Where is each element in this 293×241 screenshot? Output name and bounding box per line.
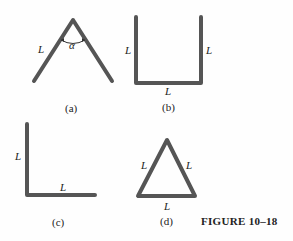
figure-title: FIGURE 10–18 (201, 216, 278, 227)
panel-a-length-label: L (38, 44, 44, 55)
panel-b-left-label: L (125, 45, 131, 56)
figure-drawing (0, 0, 293, 241)
panel-b-caption: (b) (162, 102, 175, 113)
panel-d-right-label: L (186, 160, 192, 171)
panel-d-bottom-label: L (164, 201, 170, 212)
panel-b-bottom-label: L (165, 86, 171, 97)
panel-c-vertical-label: L (15, 151, 21, 162)
panel-d-left-label: L (141, 160, 147, 171)
panel-b-rod (136, 17, 201, 83)
panel-c-horizontal-label: L (60, 182, 66, 193)
panel-b-right-label: L (206, 45, 212, 56)
panel-a-angle-label: α (69, 40, 75, 51)
panel-a-caption: (a) (65, 103, 77, 114)
panel-c-caption: (c) (52, 217, 64, 228)
figure-canvas: L α (a) L L L (b) L L (c) L L L (d) FIGU… (0, 0, 293, 241)
panel-d-caption: (d) (160, 216, 173, 227)
